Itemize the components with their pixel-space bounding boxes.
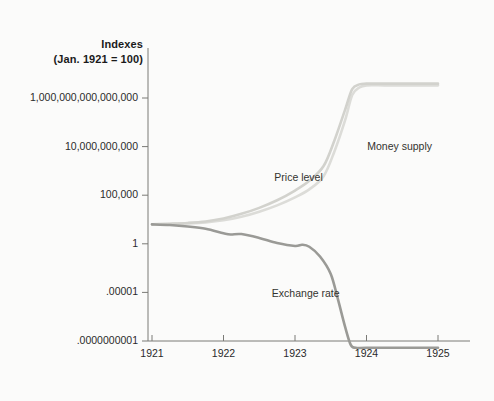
x-axis-tick-label: 1921 <box>122 347 182 359</box>
y-axis-ticks <box>142 98 148 341</box>
chart-figure: Indexes (Jan. 1921 = 100) 1,000,000,000,… <box>0 0 494 401</box>
x-axis-tick-label: 1923 <box>265 347 325 359</box>
x-axis-tick-label: 1924 <box>337 347 397 359</box>
x-axis-ticks <box>152 335 438 341</box>
series-label-price-level: Price level <box>254 171 344 183</box>
series-line-money-supply <box>152 85 438 224</box>
y-axis-tick-label: .0000000001 <box>0 334 138 346</box>
series-label-money-supply: Money supply <box>342 140 432 152</box>
series-line-price-level <box>152 84 438 225</box>
data-series-group <box>152 84 438 348</box>
y-axis-tick-label: 100,000 <box>0 188 138 200</box>
y-axis-tick-label: 1,000,000,000,000,000 <box>0 91 138 103</box>
x-axis-tick-label: 1925 <box>408 347 468 359</box>
y-axis-tick-label: 1 <box>0 237 138 249</box>
y-axis-tick-label: 10,000,000,000 <box>0 140 138 152</box>
series-label-exchange-rate: Exchange rate <box>261 287 351 299</box>
y-axis-tick-label: .00001 <box>0 285 138 297</box>
x-axis-tick-label: 1922 <box>194 347 254 359</box>
